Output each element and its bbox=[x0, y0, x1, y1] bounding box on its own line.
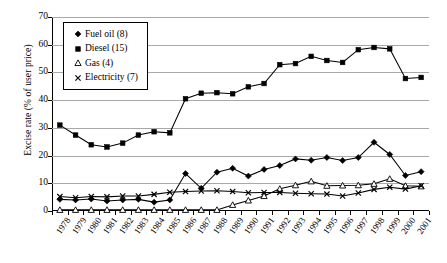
x-tick-mark bbox=[256, 211, 257, 215]
data-point bbox=[135, 196, 141, 202]
data-point bbox=[292, 156, 298, 162]
x-tick-label: 1982 bbox=[117, 216, 135, 236]
legend-item: Diesel (15) bbox=[70, 42, 138, 57]
data-point bbox=[340, 60, 345, 65]
data-point bbox=[245, 173, 251, 179]
data-point bbox=[340, 158, 346, 164]
series-line bbox=[60, 186, 421, 198]
x-tick-label: 1993 bbox=[290, 216, 308, 236]
chart-figure: Excise rate (% of user price) 0102030405… bbox=[0, 0, 447, 263]
x-tick-label: 1986 bbox=[180, 216, 198, 236]
x-tick-mark bbox=[366, 211, 367, 215]
x-tick-mark bbox=[83, 211, 84, 215]
x-tick-label: 1998 bbox=[369, 216, 387, 236]
triangle-marker-icon bbox=[70, 57, 85, 69]
x-tick-mark bbox=[319, 211, 320, 215]
x-tick-mark bbox=[209, 211, 210, 215]
data-point bbox=[325, 58, 330, 63]
y-tick-label: 10 bbox=[39, 179, 49, 189]
data-point bbox=[277, 163, 283, 169]
data-point bbox=[308, 178, 314, 184]
data-point bbox=[215, 90, 220, 95]
x-tick-mark bbox=[382, 211, 383, 215]
x-tick-mark bbox=[303, 211, 304, 215]
square-marker-icon bbox=[70, 43, 85, 55]
x-tick-label: 1989 bbox=[227, 216, 245, 236]
series-4 bbox=[57, 183, 423, 200]
x-tick-mark bbox=[429, 211, 430, 215]
x-tick-label: 1995 bbox=[322, 216, 340, 236]
legend-label: Diesel (15) bbox=[85, 44, 127, 54]
data-point bbox=[309, 54, 314, 59]
legend-item: Gas (4) bbox=[70, 56, 138, 71]
series-line bbox=[60, 179, 421, 210]
data-point bbox=[246, 85, 251, 90]
x-tick-label: 2000 bbox=[400, 216, 418, 236]
legend-label: Gas (4) bbox=[85, 59, 113, 69]
x-tick-label: 1987 bbox=[196, 216, 214, 236]
data-point bbox=[58, 123, 63, 128]
data-point bbox=[230, 91, 235, 96]
data-point bbox=[293, 61, 298, 66]
data-point bbox=[168, 131, 173, 136]
x-tick-mark bbox=[335, 211, 336, 215]
x-tick-mark bbox=[241, 211, 242, 215]
data-point bbox=[262, 81, 267, 86]
x-tick-label: 1984 bbox=[149, 216, 167, 236]
x-tick-label: 1988 bbox=[212, 216, 230, 236]
x-tick-label: 1994 bbox=[306, 216, 324, 236]
data-point bbox=[277, 62, 282, 67]
legend-label: Electricity (7) bbox=[85, 73, 138, 83]
y-tick-label: 0 bbox=[43, 206, 48, 216]
x-tick-mark bbox=[413, 211, 414, 215]
x-tick-label: 1992 bbox=[274, 216, 292, 236]
data-point bbox=[261, 166, 267, 172]
data-point bbox=[308, 157, 314, 163]
x-tick-mark bbox=[99, 211, 100, 215]
y-tick-label: 50 bbox=[39, 68, 49, 78]
series-line bbox=[60, 142, 421, 202]
data-point bbox=[120, 141, 125, 146]
diamond-marker-icon bbox=[70, 28, 85, 40]
x-tick-mark bbox=[272, 211, 273, 215]
x-tick-label: 1980 bbox=[86, 216, 104, 236]
x-tick-mark bbox=[131, 211, 132, 215]
data-point bbox=[89, 142, 94, 147]
x-tick-label: 1991 bbox=[259, 216, 277, 236]
data-point bbox=[167, 197, 173, 203]
y-tick-label: 70 bbox=[39, 12, 49, 22]
x-tick-label: 1996 bbox=[337, 216, 355, 236]
y-tick-label: 60 bbox=[39, 40, 49, 50]
legend: Fuel oil (8)Diesel (15)Gas (4)Electricit… bbox=[63, 22, 148, 90]
data-point bbox=[418, 169, 424, 175]
x-tick-label: 1997 bbox=[353, 216, 371, 236]
data-point bbox=[105, 145, 110, 150]
data-point bbox=[230, 165, 236, 171]
x-tick-label: 2001 bbox=[416, 216, 434, 236]
data-point bbox=[419, 75, 424, 80]
x-tick-label: 1999 bbox=[384, 216, 402, 236]
data-point bbox=[324, 155, 330, 161]
y-tick-label: 40 bbox=[39, 95, 49, 105]
data-point bbox=[73, 133, 78, 138]
x-tick-label: 1979 bbox=[70, 216, 88, 236]
x-tick-mark bbox=[115, 211, 116, 215]
data-point bbox=[136, 133, 141, 138]
x-tick-label: 1990 bbox=[243, 216, 261, 236]
x-tick-mark bbox=[52, 211, 53, 215]
x-tick-mark bbox=[398, 211, 399, 215]
x-tick-label: 1978 bbox=[55, 216, 73, 236]
data-point bbox=[372, 45, 377, 50]
x-tick-mark bbox=[68, 211, 69, 215]
x-tick-mark bbox=[146, 211, 147, 215]
x-tick-label: 1985 bbox=[164, 216, 182, 236]
data-point bbox=[356, 47, 361, 52]
data-point bbox=[183, 96, 188, 101]
legend-label: Fuel oil (8) bbox=[85, 30, 128, 40]
data-point bbox=[152, 129, 157, 134]
series-3 bbox=[57, 176, 424, 213]
x-tick-label: 1983 bbox=[133, 216, 151, 236]
series-1 bbox=[57, 139, 424, 205]
legend-item: Fuel oil (8) bbox=[70, 27, 138, 42]
legend-item: Electricity (7) bbox=[70, 71, 138, 86]
